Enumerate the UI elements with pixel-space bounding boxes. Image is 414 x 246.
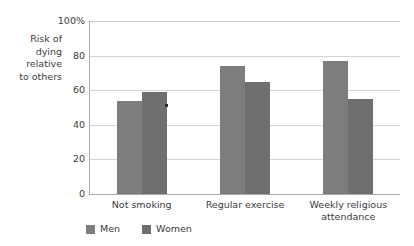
bar-women-0 [142,92,167,194]
x-axis-label-1: Regular exercise [193,199,296,211]
x-axis-label-2: Weekly religious attendance [297,199,400,222]
y-tick-label-20: 20 [51,154,85,164]
y-tick-label-80: 80 [51,51,85,61]
y-tick-label-60: 60 [51,85,85,95]
legend-item-women: Women [142,224,192,234]
bar-men-0 [117,101,142,194]
legend-item-men: Men [86,224,120,234]
y-tick-label-40: 40 [51,120,85,130]
legend-swatch-women [142,225,151,234]
legend-swatch-men [86,225,95,234]
y-axis-line [89,21,90,195]
plot-area [90,21,400,194]
y-tick-label-0: 0 [51,189,85,199]
bar-women-2 [348,99,373,194]
bar-chart: Risk of dying relative to others Men Wom… [0,0,414,246]
legend-label-women: Women [156,224,192,234]
x-axis-label-0: Not smoking [90,199,193,211]
bar-women-1 [245,82,270,194]
gridline-100 [90,21,400,22]
bar-men-1 [220,66,245,194]
y-tick-label-100: 100% [51,16,85,26]
x-axis-line [89,194,400,195]
image-speck-artifact [165,104,168,107]
legend-label-men: Men [100,224,120,234]
bar-men-2 [323,61,348,194]
chart-legend: Men Women [86,224,192,234]
gridline-80 [90,56,400,57]
